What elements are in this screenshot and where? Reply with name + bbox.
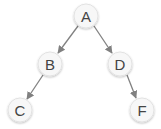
node-f: F — [130, 98, 154, 122]
node-a: A — [74, 4, 98, 28]
edge-d-f — [127, 75, 136, 98]
node-b-label: B — [45, 56, 55, 73]
edge-b-c — [27, 75, 43, 99]
tree-diagram: A B D C F — [0, 0, 161, 129]
node-a-label: A — [81, 8, 91, 25]
edge-a-b — [58, 26, 78, 53]
node-f-label: F — [137, 102, 146, 119]
node-b: B — [38, 52, 62, 76]
node-c-label: C — [15, 102, 26, 119]
node-d: D — [108, 52, 132, 76]
edge-a-d — [94, 26, 112, 53]
node-c: C — [8, 98, 32, 122]
node-d-label: D — [115, 56, 126, 73]
